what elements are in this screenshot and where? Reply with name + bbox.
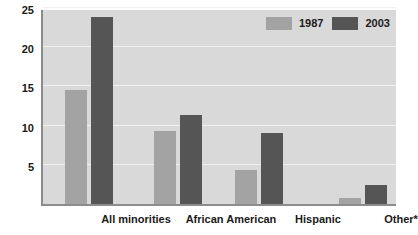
x-tick-label: African American (186, 213, 277, 225)
legend-item[interactable]: 1987 (266, 17, 323, 30)
bar-1987 (65, 90, 87, 204)
y-tick-label: 5 (0, 162, 34, 173)
y-tick-label: 20 (0, 44, 34, 55)
legend-swatch-icon (266, 17, 292, 30)
x-tick-label: Other* (384, 213, 418, 225)
bar-group (154, 10, 202, 204)
legend-swatch-icon (332, 17, 358, 30)
bar-2003 (261, 133, 283, 204)
bar-2003 (365, 185, 387, 204)
x-axis: All minoritiesAfrican AmericanHispanicOt… (41, 209, 396, 233)
bar-1987 (339, 198, 361, 204)
gridline-25 (43, 7, 396, 8)
legend: 19872003 (266, 16, 390, 30)
bar-group (65, 10, 113, 204)
y-axis: 252015105 (0, 0, 36, 235)
bar-1987 (154, 131, 176, 204)
bar-group (339, 10, 387, 204)
x-tick-label: All minorities (101, 213, 171, 225)
y-tick-label: 10 (0, 123, 34, 134)
legend-label: 1987 (299, 18, 323, 29)
legend-label: 2003 (365, 18, 389, 29)
y-tick-label: 25 (0, 5, 34, 16)
x-tick-label: Hispanic (295, 213, 341, 225)
bar-1987 (235, 170, 257, 204)
y-tick-label: 15 (0, 83, 34, 94)
plot-area (41, 10, 396, 206)
bar-2003 (180, 115, 202, 204)
bar-2003 (91, 17, 113, 204)
bar-group (235, 10, 283, 204)
legend-item[interactable]: 2003 (332, 17, 389, 30)
